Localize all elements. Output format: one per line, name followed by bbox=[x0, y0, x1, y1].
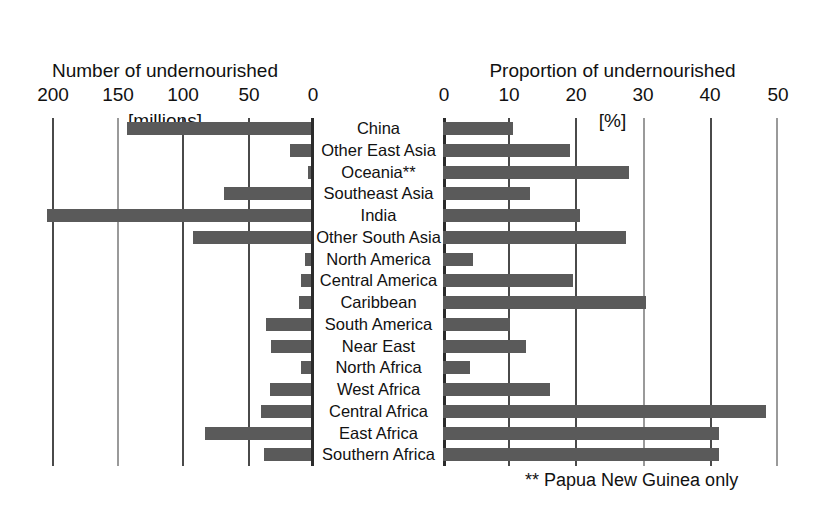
left-tick-150: 150 bbox=[93, 84, 143, 106]
bar-count bbox=[305, 253, 311, 266]
undernourishment-chart: Number of undernourished [millions] Prop… bbox=[0, 0, 819, 516]
left-tick-200: 200 bbox=[28, 84, 78, 106]
right-tick-10: 10 bbox=[484, 84, 534, 106]
left-bar-row bbox=[27, 423, 314, 445]
left-tick-100: 100 bbox=[158, 84, 208, 106]
bar-count bbox=[261, 405, 312, 418]
bar-proportion bbox=[443, 427, 719, 440]
category-label: Southeast Asia bbox=[314, 183, 443, 205]
category-label: East Africa bbox=[314, 423, 443, 445]
bar-proportion bbox=[443, 448, 719, 461]
right-panel-title-line1: Proportion of undernourished bbox=[440, 58, 785, 83]
left-tick-0: 0 bbox=[288, 84, 338, 106]
right-bar-row bbox=[443, 444, 781, 466]
bar-proportion bbox=[443, 209, 580, 222]
left-bar-row bbox=[27, 183, 314, 205]
left-plot-area bbox=[27, 118, 314, 466]
right-bar-row bbox=[443, 357, 781, 379]
footnote: ** Papua New Guinea only bbox=[525, 470, 738, 491]
bar-proportion bbox=[443, 122, 513, 135]
left-bar-row bbox=[27, 249, 314, 271]
right-bar-row bbox=[443, 292, 781, 314]
bar-count bbox=[193, 231, 311, 244]
category-label: Central America bbox=[314, 270, 443, 292]
bar-count bbox=[301, 274, 311, 287]
left-bar-row bbox=[27, 162, 314, 184]
bar-count bbox=[205, 427, 311, 440]
bar-count bbox=[266, 318, 311, 331]
category-label: South America bbox=[314, 314, 443, 336]
bar-proportion bbox=[443, 187, 530, 200]
category-label: Central Africa bbox=[314, 401, 443, 423]
right-bar-row bbox=[443, 270, 781, 292]
right-bar-row bbox=[443, 118, 781, 140]
right-tick-40: 40 bbox=[685, 84, 735, 106]
category-label: Near East bbox=[314, 336, 443, 358]
bar-count bbox=[299, 296, 311, 309]
category-label: West Africa bbox=[314, 379, 443, 401]
right-bar-row bbox=[443, 336, 781, 358]
bar-count bbox=[308, 166, 311, 179]
left-bar-row bbox=[27, 292, 314, 314]
right-bar-row bbox=[443, 205, 781, 227]
right-bar-row bbox=[443, 401, 781, 423]
bar-proportion bbox=[443, 296, 646, 309]
right-plot-area bbox=[443, 118, 781, 466]
left-bar-row bbox=[27, 227, 314, 249]
right-bar-row bbox=[443, 162, 781, 184]
bar-proportion bbox=[443, 318, 510, 331]
right-tick-30: 30 bbox=[618, 84, 668, 106]
bar-count bbox=[271, 340, 311, 353]
bar-proportion bbox=[443, 166, 629, 179]
left-bar-row bbox=[27, 270, 314, 292]
bar-proportion bbox=[443, 144, 570, 157]
right-tick-50: 50 bbox=[753, 84, 803, 106]
right-bar-row bbox=[443, 423, 781, 445]
bar-proportion bbox=[443, 383, 550, 396]
category-label: Other South Asia bbox=[314, 227, 443, 249]
bar-proportion bbox=[443, 231, 626, 244]
right-tick-20: 20 bbox=[551, 84, 601, 106]
bar-count bbox=[270, 383, 311, 396]
left-bar-row bbox=[27, 314, 314, 336]
left-bar-row bbox=[27, 357, 314, 379]
right-bar-row bbox=[443, 140, 781, 162]
category-label: Caribbean bbox=[314, 292, 443, 314]
right-bar-row bbox=[443, 183, 781, 205]
bar-count bbox=[127, 122, 311, 135]
bar-proportion bbox=[443, 405, 766, 418]
category-label: North America bbox=[314, 249, 443, 271]
left-tick-50: 50 bbox=[224, 84, 274, 106]
right-tick-0: 0 bbox=[419, 84, 469, 106]
bar-count bbox=[47, 209, 311, 222]
bar-count bbox=[224, 187, 311, 200]
left-bar-row bbox=[27, 379, 314, 401]
right-bar-row bbox=[443, 249, 781, 271]
right-bar-row bbox=[443, 227, 781, 249]
bar-proportion bbox=[443, 253, 473, 266]
left-bar-row bbox=[27, 140, 314, 162]
bar-count bbox=[301, 361, 311, 374]
bar-count bbox=[264, 448, 311, 461]
category-label: Other East Asia bbox=[314, 140, 443, 162]
category-label: India bbox=[314, 205, 443, 227]
bar-proportion bbox=[443, 274, 573, 287]
left-bar-row bbox=[27, 444, 314, 466]
left-panel-title-line1: Number of undernourished bbox=[10, 58, 320, 83]
left-bar-row bbox=[27, 118, 314, 140]
bar-count bbox=[290, 144, 311, 157]
right-bar-row bbox=[443, 314, 781, 336]
category-label: Oceania** bbox=[314, 162, 443, 184]
category-label: North Africa bbox=[314, 357, 443, 379]
right-bar-row bbox=[443, 379, 781, 401]
category-label: China bbox=[314, 118, 443, 140]
bar-proportion bbox=[443, 340, 526, 353]
bar-proportion bbox=[443, 361, 470, 374]
left-bar-row bbox=[27, 401, 314, 423]
category-label-column: ChinaOther East AsiaOceania**Southeast A… bbox=[314, 118, 443, 466]
category-label: Southern Africa bbox=[314, 444, 443, 466]
left-bar-row bbox=[27, 205, 314, 227]
left-bar-row bbox=[27, 336, 314, 358]
